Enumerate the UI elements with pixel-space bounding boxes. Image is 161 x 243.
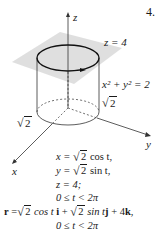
y-axis (97, 118, 148, 135)
parameter-range: 0 ≤ t < 2π (56, 193, 98, 204)
radius-label-right: √2 (102, 98, 117, 109)
x-parametric-equation: x = √2 cos t, (56, 152, 112, 163)
radius-label-left: √2 (17, 118, 32, 129)
z-axis-arrow (66, 12, 70, 17)
vector-parameter-range: 0 ≤ t < 2π (56, 221, 98, 232)
vector-equation: r =√2 cos t i + √2 sin tj + 4k, (4, 207, 133, 218)
y-axis-arrow (145, 132, 151, 137)
x-axis-hidden (52, 108, 68, 124)
figure-number: 4. (146, 5, 155, 20)
y-axis-label: y (146, 139, 151, 150)
cylinder-equation-label: x² + y² = 2 (102, 79, 150, 90)
y-parametric-equation: y = √2 sin t, (56, 166, 110, 177)
x-axis-label: x (12, 166, 17, 177)
y-axis-hidden (68, 108, 97, 118)
z-axis-label: z (73, 12, 77, 23)
base-ellipse-front (37, 112, 99, 125)
plane-label: z = 4 (104, 37, 127, 48)
z-parametric-equation: z = 4; (56, 180, 81, 191)
